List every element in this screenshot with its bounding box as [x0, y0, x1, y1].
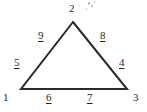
vertex-label-2: 2: [69, 3, 75, 14]
segment-label-6: 6: [46, 92, 52, 103]
segment-label-7: 7: [87, 92, 93, 103]
segment-label-4: 4: [119, 57, 125, 68]
segment-label-5: 5: [14, 57, 20, 68]
segment-label-9: 9: [38, 30, 44, 41]
segment-label-8: 8: [100, 30, 106, 41]
vertex-label-3: 3: [133, 92, 139, 103]
triangle-outline: [21, 22, 127, 89]
vertex-label-1: 1: [3, 92, 9, 103]
triangle-figure: 213 985467: [0, 0, 147, 112]
